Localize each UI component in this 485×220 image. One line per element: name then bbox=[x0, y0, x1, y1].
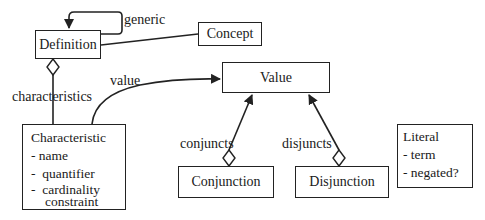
conjuncts-diamond bbox=[223, 150, 235, 166]
attribute-name: - name bbox=[31, 148, 117, 164]
conjunction-class: Conjunction bbox=[178, 166, 274, 198]
disjunction-label: Disjunction bbox=[309, 174, 374, 190]
conjuncts-label: conjuncts bbox=[180, 136, 234, 152]
value-label: Value bbox=[260, 70, 292, 86]
characteristics-label: characteristics bbox=[12, 89, 92, 105]
disjunction-class: Disjunction bbox=[295, 166, 389, 198]
characteristic-label: Characteristic bbox=[31, 130, 117, 146]
concept-label: Concept bbox=[207, 26, 254, 42]
value-class: Value bbox=[222, 62, 330, 93]
definition-class: Definition bbox=[35, 30, 101, 59]
definition-label: Definition bbox=[39, 37, 97, 53]
value-relation-label: value bbox=[110, 73, 140, 89]
characteristic-class: Characteristic - name - quantifier - car… bbox=[22, 124, 126, 210]
attribute-cardinality-cont: constraint bbox=[31, 196, 117, 207]
literal-class: Literal - term - negated? bbox=[397, 124, 473, 188]
attribute-term: - term bbox=[403, 147, 467, 163]
disjuncts-label: disjuncts bbox=[282, 136, 332, 152]
generic-label: generic bbox=[124, 12, 165, 28]
attribute-quantifier: - quantifier bbox=[31, 166, 117, 182]
definition-concept-line bbox=[101, 34, 198, 45]
attribute-negated: - negated? bbox=[403, 165, 467, 181]
disjuncts-diamond bbox=[333, 150, 345, 166]
concept-class: Concept bbox=[198, 22, 262, 46]
conjunction-label: Conjunction bbox=[191, 174, 260, 190]
literal-label: Literal bbox=[403, 129, 467, 145]
characteristics-diamond bbox=[47, 59, 59, 75]
